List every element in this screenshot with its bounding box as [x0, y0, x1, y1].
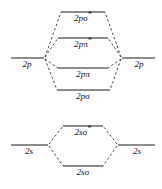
correlation-left-2p-to-pi-star — [45, 38, 58, 57]
label-mo-2s-sigma-star: 2sσ* — [74, 128, 91, 137]
correlation-left-2s-to-sigma-star — [49, 126, 63, 144]
correlation-right-2p-to-pi-star — [108, 38, 121, 57]
correlation-right-2p-to-sigma — [110, 59, 121, 90]
label-mo-2s-sigma: 2sσ — [76, 168, 89, 177]
correlation-left-2s-to-sigma — [49, 146, 63, 166]
correlation-left-2p-to-sigma — [45, 59, 57, 90]
label-mo-2p-pi-star: 2pπ* — [74, 40, 92, 49]
label-mo-2p-sigma: 2pσ — [76, 92, 90, 101]
label-atomic-2s-left: 2s — [25, 147, 33, 156]
correlation-right-2s-to-sigma-star — [103, 126, 117, 144]
correlation-left-2p-to-sigma-star — [45, 12, 61, 57]
correlation-right-2p-to-sigma-star — [105, 12, 121, 57]
label-atomic-2p-left: 2p — [22, 60, 31, 69]
label-mo-2p-sigma-star: 2pσ* — [74, 14, 92, 23]
correlation-right-2s-to-sigma — [103, 146, 117, 166]
mo-energy-level-diagram: 2pσ* 2pπ* 2pπ 2pσ 2sσ* 2sσ 2p 2p 2s 2s — [0, 0, 162, 189]
label-atomic-2p-right: 2p — [134, 60, 143, 69]
label-mo-2p-pi: 2pπ — [76, 70, 90, 79]
label-atomic-2s-right: 2s — [133, 147, 141, 156]
